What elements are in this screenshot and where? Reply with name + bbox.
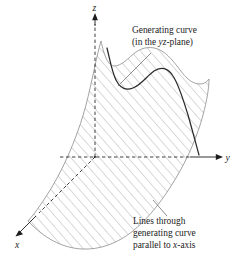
z-axis-arrowhead <box>92 13 98 20</box>
surface-of-revolution-diagram: z y x Generating curve (in the yz-plane)… <box>0 0 236 263</box>
x-axis-label: x <box>14 239 20 250</box>
ruling-lines-line-3-suffix: -axis <box>177 240 196 250</box>
y-axis-label: y <box>225 152 231 163</box>
x-axis-arrowhead <box>16 230 24 236</box>
z-axis-label: z <box>92 2 97 13</box>
generating-curve-line-2-suffix: -plane) <box>166 37 193 48</box>
ruling-lines-line-3-prefix: parallel to <box>133 240 173 250</box>
generating-curve-line-2: (in the yz-plane) <box>132 37 193 48</box>
generating-curve-plane-italic: yz <box>158 37 167 47</box>
hatched-surface <box>0 0 236 263</box>
y-axis-arrowhead <box>216 154 223 160</box>
figure-root: z y x Generating curve (in the yz-plane)… <box>0 0 236 263</box>
generating-curve-line-2-prefix: (in the <box>132 37 159 48</box>
origin-marker <box>94 156 96 158</box>
generating-curve-line-1: Generating curve <box>132 25 197 35</box>
ruling-lines-line-3: parallel to x-axis <box>133 240 196 250</box>
ruling-lines-line-2: generating curve <box>133 228 196 238</box>
generating-curve-annotation: Generating curve (in the yz-plane) <box>132 25 197 48</box>
ruling-lines-line-1: Lines through <box>133 216 186 226</box>
ruling-lines-annotation: Lines through generating curve parallel … <box>133 216 196 250</box>
